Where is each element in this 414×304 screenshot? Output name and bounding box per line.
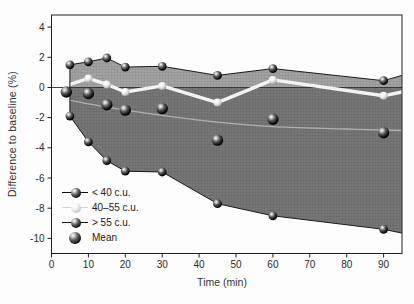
- legend-item-label: < 40 c.u.: [92, 187, 131, 198]
- legend-item-40-55: 40–55 c.u.: [62, 200, 139, 215]
- svg-text:0: 0: [39, 82, 45, 93]
- svg-text:-4: -4: [36, 142, 45, 153]
- svg-text:30: 30: [157, 259, 169, 270]
- svg-text:2: 2: [39, 52, 45, 63]
- svg-text:20: 20: [120, 259, 132, 270]
- figure-difference-to-baseline-chart: 0102030405060708090420-2-4-6-8-10 Differ…: [0, 0, 414, 304]
- svg-text:90: 90: [378, 259, 390, 270]
- svg-text:70: 70: [304, 259, 316, 270]
- svg-text:80: 80: [341, 259, 353, 270]
- svg-text:60: 60: [267, 259, 279, 270]
- x-axis-title: Time (min): [197, 276, 247, 288]
- svg-text:-8: -8: [36, 203, 45, 214]
- svg-text:40: 40: [194, 259, 206, 270]
- dark-sphere-line-icon: [62, 186, 88, 199]
- svg-text:-6: -6: [36, 173, 45, 184]
- svg-text:4: 4: [39, 22, 45, 33]
- legend-item-label: Mean: [92, 232, 117, 243]
- legend-item-label: 40–55 c.u.: [92, 202, 139, 213]
- dark-sphere-line-icon: [62, 216, 88, 229]
- svg-text:0: 0: [49, 259, 55, 270]
- legend: < 40 c.u. 40–55 c.u. > 55 c.u. Mean: [62, 185, 139, 245]
- legend-item-gt55: > 55 c.u.: [62, 215, 139, 230]
- legend-item-label: > 55 c.u.: [92, 217, 131, 228]
- svg-text:-10: -10: [30, 233, 45, 244]
- y-axis-title: Difference to baseline (%): [6, 71, 18, 197]
- svg-text:-2: -2: [36, 112, 45, 123]
- legend-item-lt40: < 40 c.u.: [62, 185, 139, 200]
- legend-item-mean: Mean: [62, 230, 139, 245]
- light-sphere-line-icon: [62, 201, 88, 214]
- large-sphere-icon: [62, 231, 88, 244]
- svg-text:50: 50: [230, 259, 242, 270]
- svg-text:10: 10: [83, 259, 95, 270]
- chart-canvas: 0102030405060708090420-2-4-6-8-10: [0, 0, 414, 304]
